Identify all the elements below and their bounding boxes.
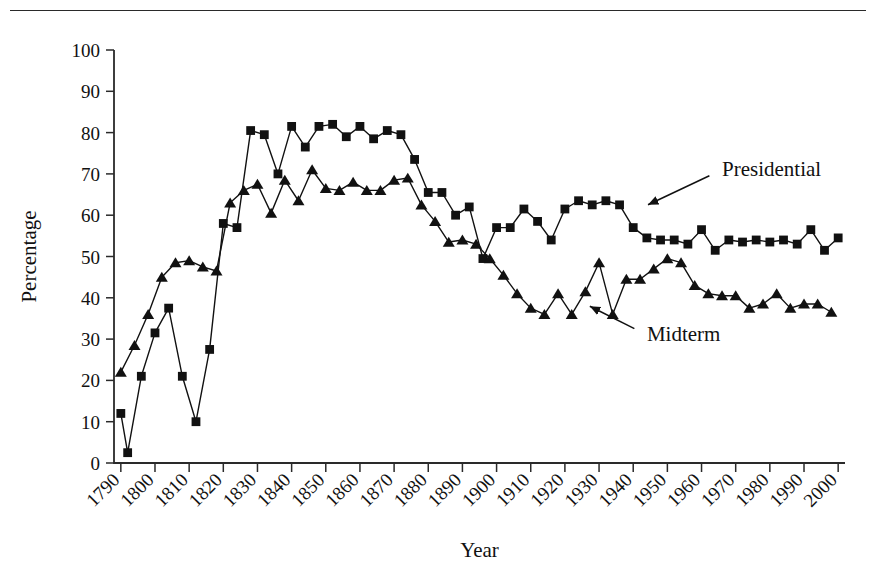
y-axis-tick-label: 100 [72, 40, 101, 61]
data-point-marker [415, 199, 427, 209]
data-point-marker [178, 372, 187, 381]
data-point-marker [210, 266, 222, 276]
data-point-marker [702, 288, 714, 298]
data-point-marker [771, 288, 783, 298]
x-axis-tick-label: 1960 [663, 469, 705, 511]
x-axis-tick-label: 1880 [389, 469, 431, 511]
data-point-marker [301, 143, 310, 152]
x-axis-tick-label: 1990 [765, 469, 807, 511]
line-chart-canvas: 0102030405060708090100179018001810182018… [0, 0, 876, 578]
data-point-marker [116, 409, 125, 418]
data-point-marker [656, 236, 665, 245]
data-point-marker [675, 257, 687, 267]
data-point-marker [506, 223, 515, 232]
data-point-marker [183, 255, 195, 265]
chart-figure: 0102030405060708090100179018001810182018… [0, 0, 876, 578]
annotation-label-midterm: Midterm [647, 322, 721, 346]
data-point-marker [601, 196, 610, 205]
x-axis-tick-label: 1790 [82, 469, 124, 511]
x-axis-tick-label: 1910 [492, 469, 534, 511]
data-point-marker [683, 240, 692, 249]
data-point-marker [123, 448, 132, 457]
data-point-marker [670, 236, 679, 245]
data-point-marker [429, 216, 441, 226]
data-point-marker [315, 122, 324, 131]
data-point-marker [492, 223, 501, 232]
y-axis-tick-label: 20 [81, 370, 100, 391]
data-point-marker [574, 196, 583, 205]
data-point-marker [197, 261, 209, 271]
data-point-marker [205, 345, 214, 354]
data-point-marker [779, 236, 788, 245]
x-axis-tick-label: 1930 [560, 469, 602, 511]
data-point-marker [561, 205, 570, 214]
y-axis-tick-label: 90 [81, 81, 100, 102]
x-axis-tick-label: 1860 [321, 469, 363, 511]
data-point-marker [806, 225, 815, 234]
annotation-label-presidential: Presidential [722, 157, 821, 181]
data-point-marker [552, 288, 564, 298]
data-point-marker [306, 164, 318, 174]
data-point-marker [369, 134, 378, 143]
x-axis-tick-label: 1920 [526, 469, 568, 511]
y-axis-tick-label: 50 [81, 247, 100, 268]
data-point-marker [410, 155, 419, 164]
data-point-marker [328, 120, 337, 129]
data-point-marker [738, 238, 747, 247]
data-point-marker [292, 195, 304, 205]
x-axis-tick-label: 2000 [799, 469, 841, 511]
data-point-marker [115, 367, 127, 377]
x-axis-tick-label: 1820 [184, 469, 226, 511]
top-divider-rule [10, 10, 866, 11]
x-axis-tick-label: 1840 [253, 469, 295, 511]
data-point-marker [397, 130, 406, 139]
x-axis-title: Year [460, 538, 499, 562]
x-axis-tick-label: 1870 [355, 469, 397, 511]
x-axis-tick-label: 1970 [697, 469, 739, 511]
data-point-marker [383, 126, 392, 135]
data-point-marker [265, 208, 277, 218]
data-point-marker [246, 126, 255, 135]
y-axis-tick-label: 30 [81, 329, 100, 350]
data-point-marker [142, 309, 154, 319]
y-axis-tick-label: 60 [81, 205, 100, 226]
data-point-marker [456, 235, 468, 245]
x-axis-tick-label: 1830 [219, 469, 261, 511]
data-point-marker [820, 246, 829, 255]
data-point-marker [697, 225, 706, 234]
data-point-marker [402, 173, 414, 183]
data-point-marker [251, 179, 263, 189]
x-axis-tick-label: 1950 [628, 469, 670, 511]
data-point-marker [520, 205, 529, 214]
data-point-marker [533, 217, 542, 226]
data-point-marker [347, 177, 359, 187]
data-point-marker [164, 304, 173, 313]
data-point-marker [192, 417, 201, 426]
data-point-marker [689, 280, 701, 290]
x-axis-tick-label: 1850 [287, 469, 329, 511]
data-point-marker [793, 240, 802, 249]
data-point-marker [765, 238, 774, 247]
y-axis-tick-label: 70 [81, 164, 100, 185]
data-point-marker [752, 236, 761, 245]
data-point-marker [629, 223, 638, 232]
data-point-marker [470, 239, 482, 249]
data-point-marker [356, 122, 365, 131]
data-point-marker [588, 200, 597, 209]
y-axis-tick-label: 10 [81, 412, 100, 433]
series-midterm: Midterm [115, 164, 838, 376]
data-point-marker [579, 286, 591, 296]
data-point-marker [538, 309, 550, 319]
x-axis-tick-label: 1980 [731, 469, 773, 511]
x-axis-tick-label: 1800 [116, 469, 158, 511]
data-point-marker [274, 170, 283, 179]
data-point-marker [320, 183, 332, 193]
x-axis-tick-label: 1900 [458, 469, 500, 511]
data-point-marker [834, 234, 843, 243]
data-point-marker [342, 132, 351, 141]
data-point-marker [511, 288, 523, 298]
data-point-marker [137, 372, 146, 381]
data-point-marker [642, 234, 651, 243]
data-point-marker [451, 211, 460, 220]
data-point-marker [825, 307, 837, 317]
